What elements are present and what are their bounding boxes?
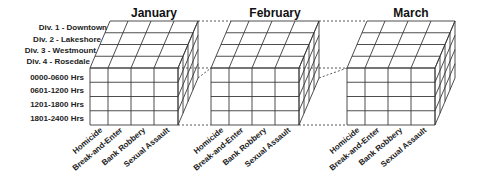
- month-title-january: January: [131, 6, 177, 20]
- month-title-march: March: [393, 6, 428, 20]
- connector-dash: [198, 68, 211, 78]
- connector-dash: [319, 68, 347, 78]
- time-period-label: 0000-0600 Hrs: [30, 73, 84, 82]
- crime-type-labels: HomicideBreak-and-EnterBank RobberySexua…: [71, 125, 429, 172]
- cube-march: [347, 21, 455, 125]
- connector-dashes: [178, 21, 367, 125]
- division-label: Div. 4 - Rosedale: [27, 57, 91, 66]
- division-label: Div. 2 - Lakeshore: [33, 35, 101, 44]
- cube-february: [211, 21, 319, 125]
- time-period-label: 0601-1200 Hrs: [30, 86, 84, 95]
- data-cube-diagram: Div. 1 - Downtown Div. 2 - Lakeshore Div…: [0, 0, 479, 186]
- time-period-label: 1801-2400 Hrs: [30, 114, 84, 123]
- cubes: [90, 21, 455, 125]
- month-title-february: February: [249, 6, 301, 20]
- axis-labels: Div. 1 - Downtown Div. 2 - Lakeshore Div…: [25, 23, 107, 123]
- division-label: Div. 3 - Westmount: [25, 46, 97, 55]
- division-label: Div. 1 - Downtown: [39, 23, 107, 32]
- time-period-label: 1201-1800 Hrs: [30, 100, 84, 109]
- cube-january: [90, 21, 198, 125]
- month-titles: January February March: [131, 6, 429, 20]
